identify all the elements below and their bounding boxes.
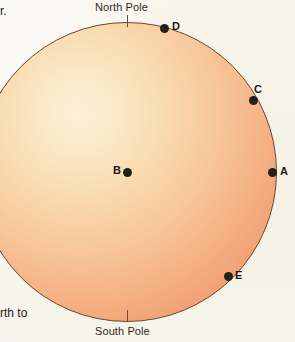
south-pole-label: South Pole [95, 325, 150, 337]
north-pole-label: North Pole [95, 1, 148, 13]
margin-text-bottom-left: rth to [0, 306, 27, 320]
south-pole-tick [127, 310, 128, 322]
point-marker-d [160, 24, 169, 33]
margin-text-top-left: r. [0, 4, 7, 18]
point-label-c: C [254, 83, 262, 95]
textbook-page-figure: r. rth to North Pole South Pole D C A B … [0, 0, 295, 342]
point-marker-c [249, 96, 258, 105]
point-label-a: A [280, 165, 288, 177]
point-label-e: E [235, 269, 242, 281]
point-label-d: D [172, 20, 180, 32]
point-marker-b [123, 168, 132, 177]
north-pole-tick [127, 15, 128, 27]
point-marker-e [224, 272, 233, 281]
point-label-b: B [113, 164, 121, 176]
point-marker-a [268, 168, 277, 177]
